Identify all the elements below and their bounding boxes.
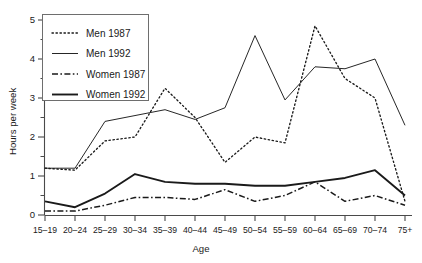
y-tick-label: 2: [30, 131, 35, 142]
x-tick-label: 50–54: [243, 225, 267, 235]
x-tick-label: 65–69: [333, 225, 357, 235]
x-axis-title: Age: [192, 243, 209, 254]
legend-label: Women 1987: [86, 69, 146, 80]
y-tick-label: 4: [30, 53, 35, 64]
x-tick-label: 55–59: [273, 225, 297, 235]
line-chart: 012345 Hours per week 15–1920–2425–2930–…: [0, 0, 422, 263]
y-tick-label: 0: [30, 209, 35, 220]
y-axis: 012345 Hours per week: [7, 14, 45, 220]
x-tick-label: 15–19: [33, 225, 57, 235]
legend-label: Women 1992: [86, 89, 146, 100]
x-tick-label: 20–24: [63, 225, 87, 235]
x-tick-label: 70–74: [363, 225, 387, 235]
x-tick-label: 75+: [398, 225, 413, 235]
y-tick-label: 3: [30, 92, 35, 103]
x-axis: 15–1920–2425–2930–3435–3940–4445–4950–54…: [33, 216, 412, 255]
x-tick-label: 45–49: [213, 225, 237, 235]
y-tick-label: 5: [30, 14, 35, 25]
y-axis-title: Hours per week: [7, 88, 18, 155]
legend-label: Men 1987: [86, 28, 131, 39]
x-tick-label: 40–44: [183, 225, 207, 235]
x-tick-label: 60–64: [303, 225, 327, 235]
x-tick-label: 35–39: [153, 225, 177, 235]
chart-legend: Men 1987Men 1992Women 1987Women 1992: [43, 15, 149, 101]
x-tick-group: 15–1920–2425–2930–3435–3940–4445–4950–54…: [33, 216, 412, 236]
chart-figure: 012345 Hours per week 15–1920–2425–2930–…: [0, 0, 422, 263]
x-tick-label: 25–29: [93, 225, 117, 235]
y-tick-label: 1: [30, 170, 35, 181]
series-line-women-1992: [45, 170, 405, 207]
legend-label: Men 1992: [86, 48, 131, 59]
x-tick-label: 30–34: [123, 225, 147, 235]
